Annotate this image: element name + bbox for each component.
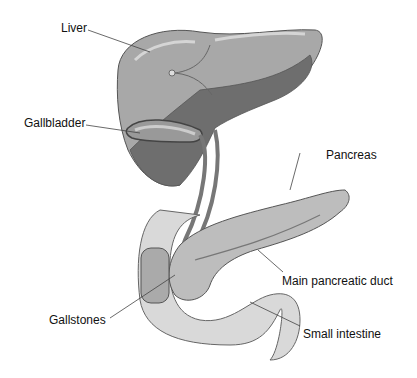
label-liver: Liver: [61, 21, 87, 35]
label-small-intestine: Small intestine: [303, 327, 381, 341]
label-gallstones: Gallstones: [49, 313, 106, 327]
label-pancreas: Pancreas: [326, 148, 377, 162]
label-main-pancreatic-duct: Main pancreatic duct: [282, 274, 393, 288]
anatomy-diagram: Liver Gallbladder Pancreas Main pancreat…: [0, 0, 417, 378]
label-gallbladder: Gallbladder: [24, 116, 85, 130]
liver-shape: [117, 30, 322, 186]
